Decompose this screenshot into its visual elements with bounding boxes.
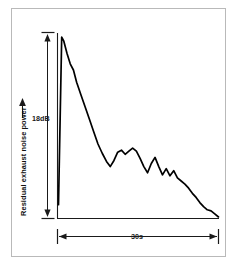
y-axis-title: Residual exhaust noise power [19, 107, 28, 216]
x-scale-left-arrowhead [59, 233, 67, 239]
figure-container: 18dB 30s Residual exhaust noise power [0, 0, 237, 271]
noise-decay-curve [59, 37, 219, 217]
y-scale-down-arrowhead [44, 210, 50, 218]
x-scale-label: 30s [131, 232, 143, 241]
chart-plot: 18dB 30s Residual exhaust noise power [0, 0, 237, 271]
x-scale-right-arrowhead [210, 233, 218, 239]
y-scale-up-arrowhead [44, 34, 50, 42]
y-title-arrow-head [19, 98, 26, 106]
y-scale-label: 18dB [32, 114, 50, 123]
